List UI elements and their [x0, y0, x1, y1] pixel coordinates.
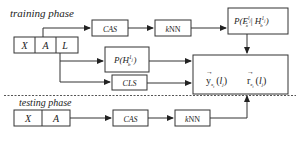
knn-train-label: kNN	[165, 25, 180, 34]
testing-phase-label: testing phase	[19, 97, 72, 108]
test-input-a: A	[52, 113, 60, 124]
edge-knn-test-to-output	[210, 96, 247, 118]
training-input-row: X A L	[14, 37, 78, 53]
edge-a-to-cas	[43, 28, 90, 37]
knn-test-label: kNN	[185, 115, 200, 124]
training-phase-label: training phase	[10, 7, 74, 19]
input-l: L	[61, 40, 68, 51]
input-x: X	[20, 40, 28, 51]
cls-label: CLS	[123, 79, 137, 88]
flow-diagram: training phase testing phase X A L CAS k…	[0, 0, 301, 143]
testing-input-row: X A	[14, 110, 70, 126]
cas-test-label: CAS	[123, 115, 137, 124]
input-a: A	[41, 40, 49, 51]
p-h-label: P(H1jb)	[113, 54, 136, 67]
test-input-x: X	[24, 113, 32, 124]
cas-train-label: CAS	[103, 25, 117, 34]
